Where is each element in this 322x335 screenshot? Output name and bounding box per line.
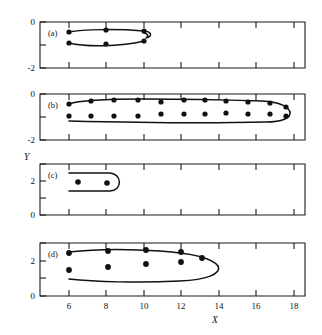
xtick-label-10: 10	[140, 301, 150, 311]
xtick-label-12: 12	[177, 301, 186, 311]
panel-b-contour-upper	[69, 99, 290, 112]
datapoint	[141, 28, 146, 33]
datapoint	[103, 27, 108, 32]
datapoint	[267, 100, 272, 105]
panel-b-contour-lower	[69, 112, 290, 123]
datapoint	[143, 261, 149, 267]
datapoint	[111, 113, 116, 118]
panel-c: 2 0 Y (c)	[24, 152, 305, 220]
datapoint	[111, 97, 116, 102]
datapoint	[66, 250, 72, 256]
panel-d-label: (d)	[48, 249, 58, 259]
panel-b: 0 -2 (b)	[28, 89, 306, 145]
datapoint	[178, 249, 184, 255]
datapoint	[66, 40, 71, 45]
datapoint	[267, 111, 272, 116]
datapoint	[141, 38, 146, 43]
datapoint	[143, 247, 149, 253]
datapoint	[199, 255, 205, 261]
datapoint	[158, 99, 163, 104]
panel-a-label: (a)	[48, 28, 58, 38]
datapoint	[178, 259, 184, 265]
panel-c-ylabel-0: 0	[31, 210, 36, 220]
datapoint	[104, 180, 110, 186]
datapoint	[223, 110, 228, 115]
datapoint	[105, 264, 111, 270]
datapoint	[88, 113, 93, 118]
datapoint	[135, 113, 140, 118]
panel-d-ylabel-2: 2	[31, 256, 36, 266]
multi-panel-scatter-figure: 0 -2 (a)	[0, 0, 322, 335]
datapoint	[103, 41, 108, 46]
datapoint	[75, 179, 81, 185]
panel-c-label: (c)	[48, 170, 58, 180]
figure-container: 0 -2 (a)	[0, 0, 322, 335]
datapoint	[245, 111, 250, 116]
datapoint	[66, 101, 71, 106]
datapoint	[283, 113, 288, 118]
datapoint	[66, 113, 71, 118]
datapoint	[66, 29, 71, 34]
y-axis-title: Y	[24, 152, 31, 162]
datapoint	[158, 111, 163, 116]
panel-b-ylabel-neg2: -2	[28, 135, 36, 145]
x-axis-title: X	[211, 315, 219, 325]
xtick-label-8: 8	[104, 301, 109, 311]
panel-b-label: (b)	[48, 100, 58, 110]
panel-c-frame	[40, 164, 305, 215]
xtick-label-6: 6	[67, 301, 72, 311]
panel-d: 2 0 (d) 6 8 10 12 14 16 18 X	[31, 243, 306, 325]
panel-a-ylabel-0: 0	[31, 17, 36, 27]
panel-d-contour-lower	[69, 266, 219, 282]
panel-d-ylabel-0: 0	[31, 291, 36, 301]
panel-b-ylabel-0: 0	[31, 89, 36, 99]
datapoint	[181, 97, 186, 102]
datapoint	[202, 111, 207, 116]
datapoint	[223, 98, 228, 103]
xtick-label-16: 16	[252, 301, 262, 311]
datapoint	[88, 98, 93, 103]
panel-c-ylabel-2: 2	[31, 176, 36, 186]
datapoint	[66, 267, 72, 273]
datapoint	[135, 97, 140, 102]
datapoint	[105, 248, 111, 254]
datapoint	[283, 104, 288, 109]
panel-a-ylabel-neg2: -2	[28, 63, 36, 73]
datapoint	[202, 97, 207, 102]
panel-a-contour-upper	[69, 30, 150, 38]
datapoint	[245, 99, 250, 104]
panel-a: 0 -2 (a)	[28, 17, 306, 73]
datapoint	[181, 111, 186, 116]
xtick-label-14: 14	[215, 301, 225, 311]
xtick-label-18: 18	[290, 301, 300, 311]
